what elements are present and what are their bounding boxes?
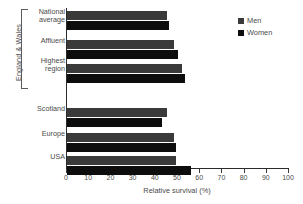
x-tick-label-40: 40 bbox=[151, 174, 159, 181]
legend-item-men: Men bbox=[238, 16, 272, 25]
bar-europe-women bbox=[67, 143, 176, 152]
legend: Men Women bbox=[238, 16, 272, 40]
category-label-national-average: National average bbox=[28, 8, 65, 24]
category-label-column: National average Affluent Highest region… bbox=[28, 0, 65, 168]
x-tick-90 bbox=[266, 169, 267, 173]
bar-highest-region-women bbox=[67, 74, 185, 83]
x-tick-label-20: 20 bbox=[106, 174, 114, 181]
x-tick-label-100: 100 bbox=[282, 174, 294, 181]
bar-affluent-women bbox=[67, 50, 178, 59]
legend-item-women: Women bbox=[238, 28, 272, 37]
bar-affluent-men bbox=[67, 40, 174, 49]
x-tick-70 bbox=[221, 169, 222, 173]
category-label-highest-region: Highest region bbox=[28, 57, 65, 73]
category-label-line2: average bbox=[28, 16, 65, 24]
x-tick-100 bbox=[288, 169, 289, 173]
x-tick-label-50: 50 bbox=[173, 174, 181, 181]
x-tick-label-70: 70 bbox=[217, 174, 225, 181]
category-label-line1: Affluent bbox=[28, 37, 65, 45]
x-tick-label-10: 10 bbox=[84, 174, 92, 181]
category-label-europe: Europe bbox=[28, 130, 65, 138]
bar-national-average-men bbox=[67, 11, 167, 20]
bar-usa-women bbox=[67, 166, 191, 175]
bar-europe-men bbox=[67, 133, 174, 142]
bar-usa-men bbox=[67, 156, 176, 165]
group-axis-label: England & Wales bbox=[14, 9, 23, 97]
x-tick-60 bbox=[199, 169, 200, 173]
bar-national-average-women bbox=[67, 21, 169, 30]
x-tick-label-60: 60 bbox=[195, 174, 203, 181]
x-tick-80 bbox=[244, 169, 245, 173]
bar-highest-region-men bbox=[67, 64, 182, 73]
x-tick-label-0: 0 bbox=[64, 174, 68, 181]
relative-survival-bar-chart: England & Wales National average Affluen… bbox=[0, 0, 303, 204]
category-label-scotland: Scotland bbox=[28, 105, 65, 113]
legend-swatch-women-icon bbox=[238, 30, 244, 36]
category-label-line1: Europe bbox=[28, 130, 65, 138]
x-axis-title: Relative survival (%) bbox=[66, 186, 288, 195]
legend-label-women: Women bbox=[247, 28, 272, 37]
bar-scotland-women bbox=[67, 118, 162, 127]
category-label-line1: USA bbox=[28, 153, 65, 161]
category-label-line2: region bbox=[28, 65, 65, 73]
category-label-usa: USA bbox=[28, 153, 65, 161]
category-label-affluent: Affluent bbox=[28, 37, 65, 45]
legend-swatch-men-icon bbox=[238, 18, 244, 24]
x-tick-label-90: 90 bbox=[262, 174, 270, 181]
x-tick-label-30: 30 bbox=[129, 174, 137, 181]
bar-scotland-men bbox=[67, 108, 167, 117]
legend-label-men: Men bbox=[247, 16, 261, 25]
category-label-line1: Scotland bbox=[28, 105, 65, 113]
x-tick-label-80: 80 bbox=[240, 174, 248, 181]
